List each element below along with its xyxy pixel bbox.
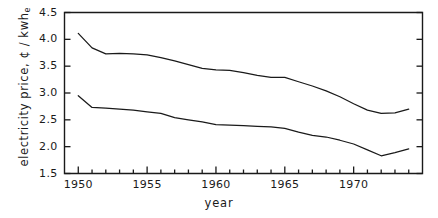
plot-frame [65,13,423,174]
data-lines [78,33,408,155]
plot-area [0,0,438,218]
line-series-lower [78,96,408,156]
line-series-upper [78,33,408,113]
tick-marks [65,13,423,174]
axes-frame [65,13,423,174]
chart-figure: electricity price, ¢ / kwhe year 1.52.02… [0,0,438,218]
